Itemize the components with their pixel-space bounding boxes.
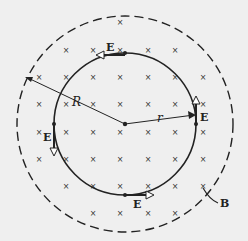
field-x-marker: × — [90, 155, 97, 164]
field-x-marker: × — [90, 100, 97, 109]
field-x-marker: × — [117, 155, 124, 164]
field-x-marker: × — [117, 209, 124, 218]
field-x-marker: × — [145, 73, 152, 82]
field-x-marker: × — [145, 155, 152, 164]
field-x-marker: × — [117, 182, 124, 191]
field-x-marker: × — [145, 46, 152, 55]
field-x-marker: × — [145, 209, 152, 218]
label-R: R — [71, 95, 81, 109]
field-x-marker: × — [90, 73, 97, 82]
field-x-marker: × — [117, 128, 124, 137]
field-x-marker: × — [63, 182, 70, 191]
label-E-left: E — [43, 131, 51, 144]
field-x-marker: × — [172, 100, 179, 109]
field-x-marker: × — [172, 209, 179, 218]
field-x-marker: × — [200, 155, 207, 164]
field-x-marker: × — [117, 73, 124, 82]
field-x-marker: × — [172, 155, 179, 164]
label-B: B — [220, 197, 229, 210]
field-x-marker: × — [172, 128, 179, 137]
field-x-marker: × — [63, 46, 70, 55]
field-x-marker: × — [36, 100, 43, 109]
field-x-marker: × — [90, 46, 97, 55]
field-x-marker: × — [172, 46, 179, 55]
label-E-bottom: E — [133, 198, 141, 211]
field-x-marker: × — [36, 73, 43, 82]
field-x-marker: × — [200, 100, 207, 109]
field-x-marker: × — [145, 128, 152, 137]
field-x-marker: × — [90, 128, 97, 137]
field-x-marker: × — [117, 18, 124, 27]
label-E-right: E — [200, 111, 208, 124]
field-x-marker: × — [200, 73, 207, 82]
E-vector-right — [192, 96, 200, 126]
field-x-marker: × — [117, 100, 124, 109]
faraday-induction-diagram: ××××××××××××××××××××××××××××××××××××××××… — [0, 0, 248, 241]
field-x-marker: × — [145, 182, 152, 191]
field-x-marker: × — [36, 128, 43, 137]
magnetic-field-into-page-markers: ××××××××××××××××××××××××××××××××××××××××… — [36, 18, 207, 218]
field-x-marker: × — [63, 100, 70, 109]
field-x-marker: × — [90, 209, 97, 218]
field-x-marker: × — [145, 100, 152, 109]
field-x-marker: × — [63, 128, 70, 137]
field-x-marker: × — [172, 182, 179, 191]
label-r: r — [157, 111, 164, 125]
label-E-top: E — [106, 41, 114, 54]
field-x-marker: × — [36, 155, 43, 164]
field-x-marker: × — [200, 128, 207, 137]
